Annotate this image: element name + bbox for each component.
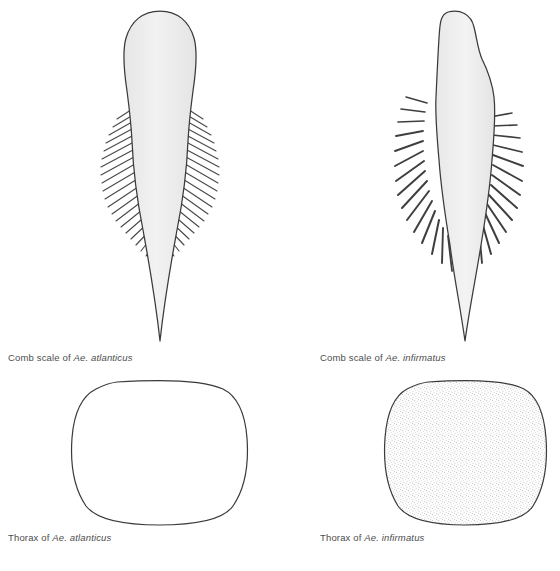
caption-species: atlanticus <box>70 532 112 543</box>
caption-genus: Ae. <box>385 352 403 363</box>
comb-scale-body <box>436 11 495 341</box>
caption-prefix: Comb scale of <box>320 352 385 363</box>
figure-canvas: Comb scale of Ae. atlanticus Comb scale … <box>0 0 560 571</box>
caption-prefix: Thorax of <box>320 532 364 543</box>
caption-species: infirmatus <box>403 352 446 363</box>
comb-scale-body <box>124 11 196 341</box>
caption-thorax-infirmatus: Thorax of Ae. infirmatus <box>320 532 424 544</box>
thorax-atlanticus-illustration <box>55 378 265 528</box>
comb-scale-atlanticus-svg <box>55 5 265 350</box>
caption-prefix: Comb scale of <box>8 352 73 363</box>
thorax-outline <box>72 381 248 525</box>
caption-genus: Ae. <box>73 352 91 363</box>
caption-genus: Ae. <box>52 532 70 543</box>
thorax-infirmatus-svg <box>370 378 560 528</box>
caption-genus: Ae. <box>364 532 382 543</box>
comb-scale-infirmatus-illustration <box>370 5 560 350</box>
comb-scale-atlanticus-illustration <box>55 5 265 350</box>
thorax-atlanticus-svg <box>55 378 265 528</box>
caption-prefix: Thorax of <box>8 532 52 543</box>
caption-thorax-atlanticus: Thorax of Ae. atlanticus <box>8 532 111 544</box>
caption-species: infirmatus <box>382 532 425 543</box>
comb-scale-infirmatus-svg <box>370 5 560 350</box>
thorax-infirmatus-illustration <box>370 378 560 528</box>
caption-comb-scale-infirmatus: Comb scale of Ae. infirmatus <box>320 352 446 364</box>
thorax-stipple-texture <box>370 378 560 528</box>
caption-species: atlanticus <box>91 352 133 363</box>
caption-comb-scale-atlanticus: Comb scale of Ae. atlanticus <box>8 352 133 364</box>
